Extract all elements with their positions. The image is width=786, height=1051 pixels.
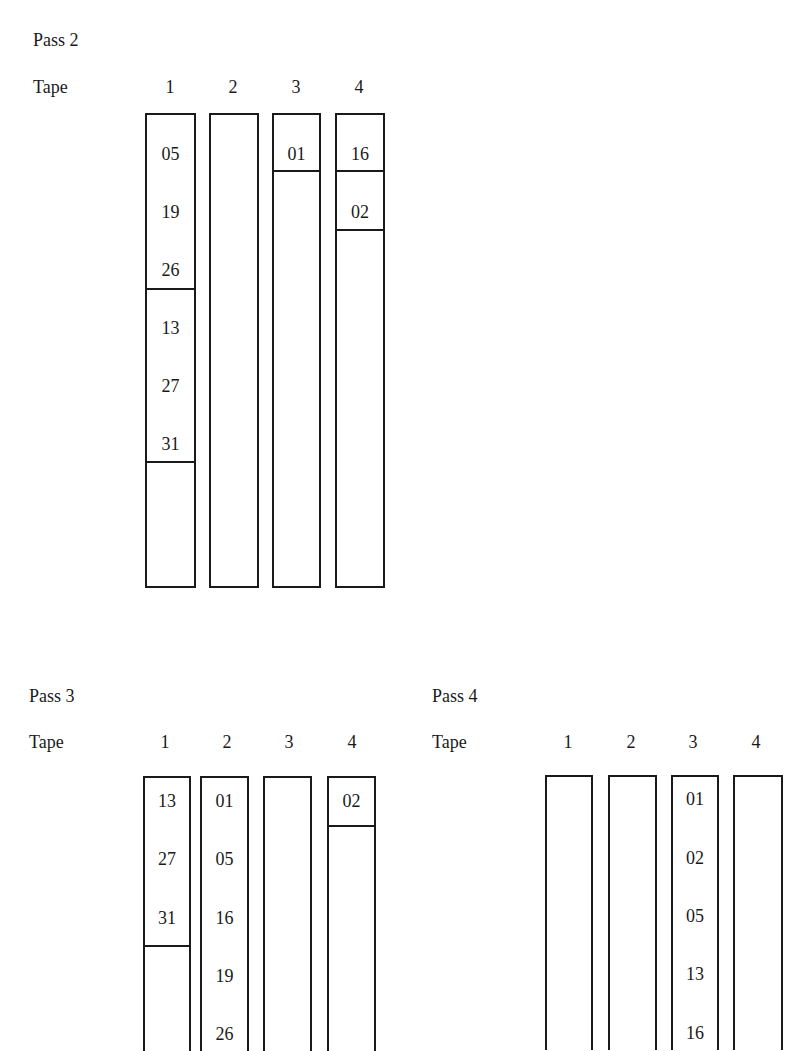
record: 16 bbox=[337, 144, 383, 164]
pass2-tape-1: 05 19 26 13 27 31 bbox=[145, 113, 196, 588]
record: 13 bbox=[145, 791, 189, 811]
pass4-tape-number-2: 2 bbox=[621, 732, 641, 752]
record: 13 bbox=[673, 964, 717, 984]
pass2-tape-3: 01 bbox=[272, 113, 321, 588]
run-divider bbox=[147, 288, 194, 290]
pass3-tape-label: Tape bbox=[29, 732, 64, 752]
pass3-tape-number-4: 4 bbox=[342, 732, 362, 752]
record: 01 bbox=[274, 144, 319, 164]
run-divider bbox=[145, 945, 189, 947]
pass3-tape-2: 01 05 16 19 26 bbox=[200, 776, 249, 1051]
record: 16 bbox=[673, 1023, 717, 1043]
pass3-tape-number-2: 2 bbox=[217, 732, 237, 752]
pass3-tape-1: 13 27 31 bbox=[143, 776, 191, 1051]
pass3-tape-4: 02 bbox=[327, 776, 376, 1051]
record: 19 bbox=[147, 202, 194, 222]
record: 05 bbox=[202, 849, 247, 869]
record: 31 bbox=[145, 908, 189, 928]
record: 16 bbox=[202, 908, 247, 928]
pass2-tape-number-3: 3 bbox=[286, 77, 306, 97]
pass4-title: Pass 4 bbox=[432, 686, 478, 706]
pass2-title: Pass 2 bbox=[33, 30, 79, 50]
record: 01 bbox=[673, 789, 717, 809]
pass4-tape-3: 01 02 05 13 16 bbox=[671, 775, 719, 1050]
record: 02 bbox=[329, 791, 374, 811]
pass2-tape-number-4: 4 bbox=[349, 77, 369, 97]
pass4-tape-number-3: 3 bbox=[683, 732, 703, 752]
record: 26 bbox=[202, 1024, 247, 1044]
pass4-tape-4 bbox=[733, 775, 783, 1050]
pass3-tape-number-1: 1 bbox=[155, 732, 175, 752]
pass4-tape-label: Tape bbox=[432, 732, 467, 752]
pass2-tape-2 bbox=[209, 113, 259, 588]
record: 31 bbox=[147, 434, 194, 454]
record: 13 bbox=[147, 318, 194, 338]
record: 27 bbox=[145, 849, 189, 869]
pass4-tape-number-1: 1 bbox=[558, 732, 578, 752]
record: 02 bbox=[673, 848, 717, 868]
pass3-tape-number-3: 3 bbox=[279, 732, 299, 752]
record: 01 bbox=[202, 791, 247, 811]
pass4-tape-1 bbox=[545, 775, 593, 1050]
record: 02 bbox=[337, 202, 383, 222]
pass4-tape-number-4: 4 bbox=[746, 732, 766, 752]
pass3-title: Pass 3 bbox=[29, 686, 75, 706]
record: 05 bbox=[147, 144, 194, 164]
pass3-tape-3 bbox=[263, 776, 312, 1051]
run-divider bbox=[329, 825, 374, 827]
pass2-tape-number-2: 2 bbox=[223, 77, 243, 97]
run-divider bbox=[337, 170, 383, 172]
pass4-tape-2 bbox=[608, 775, 657, 1050]
pass2-tape-number-1: 1 bbox=[160, 77, 180, 97]
run-divider bbox=[337, 229, 383, 231]
record: 05 bbox=[673, 906, 717, 926]
pass2-tape-label: Tape bbox=[33, 77, 68, 97]
record: 19 bbox=[202, 966, 247, 986]
record: 27 bbox=[147, 376, 194, 396]
run-divider bbox=[274, 170, 319, 172]
pass2-tape-4: 16 02 bbox=[335, 113, 385, 588]
record: 26 bbox=[147, 260, 194, 280]
run-divider bbox=[147, 461, 194, 463]
